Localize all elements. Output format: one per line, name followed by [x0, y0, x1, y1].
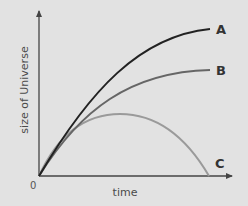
- curve-c: [39, 114, 209, 176]
- y-axis-label: size of Universe: [18, 46, 31, 134]
- curve-a: [39, 29, 210, 176]
- label-a: A: [216, 22, 226, 37]
- x-axis-label: time: [113, 186, 138, 199]
- chart: A B C 0 time size of Universe: [0, 0, 248, 206]
- curve-b: [39, 70, 210, 176]
- label-b: B: [216, 63, 226, 78]
- label-c: C: [215, 156, 225, 171]
- origin-label: 0: [30, 180, 36, 191]
